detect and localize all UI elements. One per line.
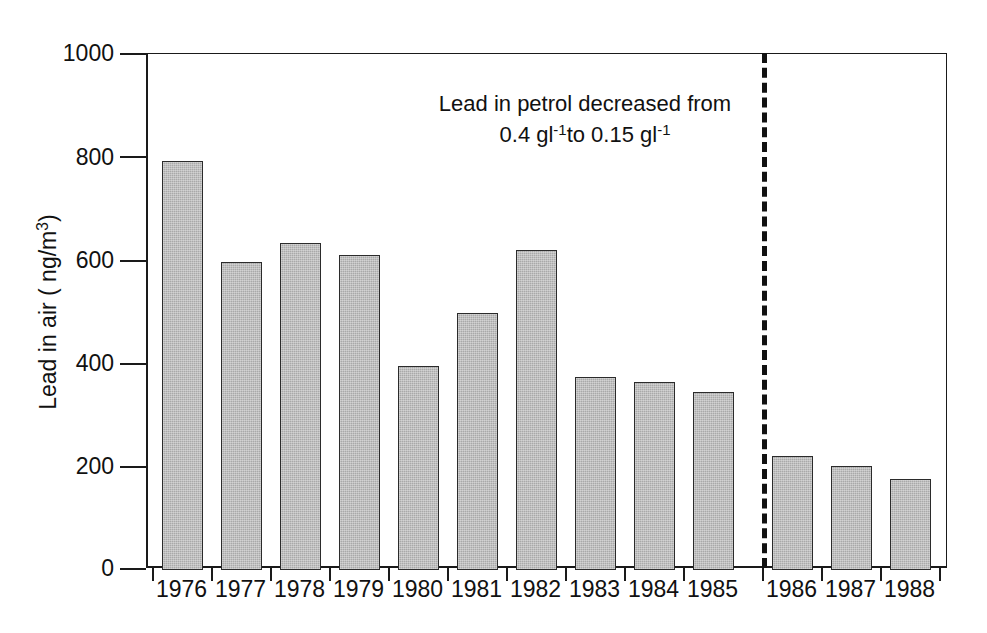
x-tick-label-1985: 1985 [683,578,742,601]
annotation-value-to: to 0.15 gl [567,123,658,148]
y-tick-mark-800 [120,156,146,158]
bar-1976 [162,161,203,570]
bar-chart-figure: Lead in air ( ng/m3) 0 200 400 600 800 1… [0,0,987,633]
y-tick-mark-600 [120,260,146,262]
y-tick-label-1000: 1000 [44,42,114,65]
bar-1978 [280,243,321,570]
x-tick-label-1984: 1984 [624,578,683,601]
annotation-exponent-to: -1 [657,121,670,138]
x-tick-label-1977: 1977 [211,578,270,601]
bar-1981 [457,313,498,570]
y-tick-label-200: 200 [58,455,114,478]
y-tick-mark-0 [120,568,146,570]
annotation-line-1: Lead in petrol decreased from [400,88,770,119]
bar-1983 [575,377,616,570]
bar-1982 [516,250,557,570]
x-tick-label-1978: 1978 [270,578,329,601]
y-tick-label-400: 400 [58,352,114,375]
x-tick-label-1987: 1987 [821,578,880,601]
bar-1988 [890,479,931,570]
y-tick-label-600: 600 [58,249,114,272]
x-tick-label-1981: 1981 [447,578,506,601]
x-tick-label-1979: 1979 [329,578,388,601]
bar-1977 [221,262,262,570]
x-tick-label-1980: 1980 [388,578,447,601]
x-tick-label-1982: 1982 [506,578,565,601]
x-tick-label-1976: 1976 [152,578,211,601]
x-tick-label-1986: 1986 [762,578,821,601]
annotation-exponent-from: -1 [553,121,566,138]
y-tick-mark-200 [120,466,146,468]
x-tick-label-1983: 1983 [565,578,624,601]
annotation-line-2: 0.4 gl-1to 0.15 gl-1 [400,119,770,151]
y-axis-title-superscript: 3 [34,222,51,231]
annotation-value-from: 0.4 gl [500,123,554,148]
annotation-petrol-lead-note: Lead in petrol decreased from 0.4 gl-1to… [400,88,770,151]
x-tick-label-1988: 1988 [880,578,939,601]
y-tick-mark-1000 [120,53,146,55]
bar-1979 [339,255,380,571]
bar-1986 [772,456,813,570]
bar-1984 [634,382,675,570]
y-axis-title: Lead in air ( ng/m3) [34,167,62,457]
y-tick-label-800: 800 [58,146,114,169]
bar-1987 [831,466,872,570]
y-tick-mark-400 [120,363,146,365]
y-tick-label-0: 0 [86,557,114,580]
bar-1980 [398,366,439,570]
bar-1985 [693,392,734,570]
y-axis-title-tail: ) [35,214,61,222]
x-tick-mark-13 [939,568,941,581]
